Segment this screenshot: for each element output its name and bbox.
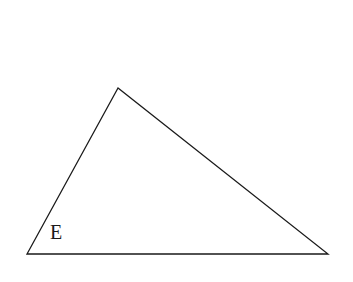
- triangle-diagram: E: [0, 0, 353, 282]
- angle-label-e: E: [50, 221, 62, 243]
- triangle-shape: [27, 88, 328, 254]
